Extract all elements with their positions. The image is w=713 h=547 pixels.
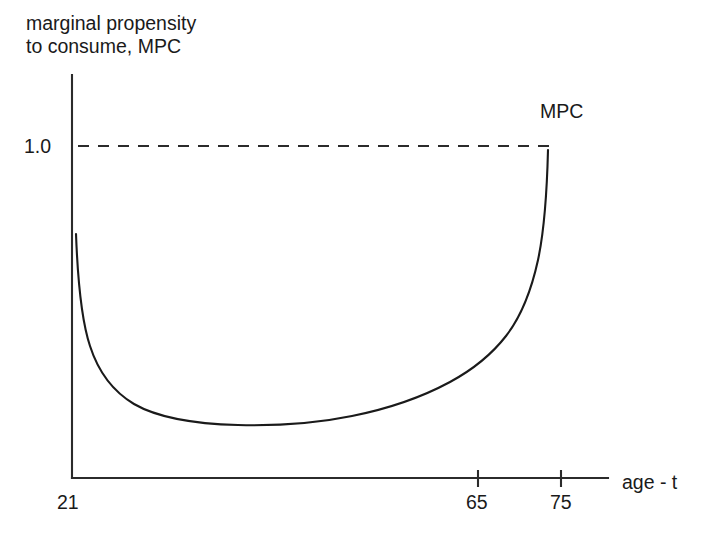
x-tick-label-21: 21 [57,491,79,514]
x-axis-title: age - t [622,471,677,494]
y-axis-title-line2: to consume, MPC [26,35,181,57]
mpc-curve-label: MPC [540,100,583,123]
x-tick-label-65: 65 [466,491,488,514]
mpc-curve [76,150,548,425]
chart-canvas [0,0,713,547]
y-tick-label-1-0: 1.0 [24,135,51,158]
y-axis-title: marginal propensityto consume, MPC [26,12,196,58]
x-tick-label-75: 75 [550,491,572,514]
mpc-lifecycle-chart: marginal propensityto consume, MPC 1.0 M… [0,0,713,547]
y-axis-title-line1: marginal propensity [26,12,196,34]
